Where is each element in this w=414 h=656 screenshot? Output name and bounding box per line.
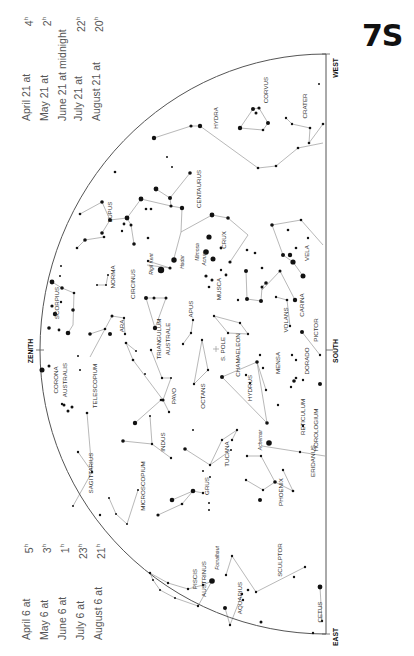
star [259, 299, 263, 303]
star [239, 322, 241, 324]
star [210, 213, 215, 218]
star [220, 375, 224, 379]
constellation-label: INDUS [159, 432, 166, 451]
star [266, 440, 272, 446]
time-date: July 21 at [71, 76, 89, 121]
star [318, 83, 320, 85]
star [144, 373, 146, 375]
star [132, 359, 135, 362]
star [309, 127, 312, 130]
star [251, 107, 255, 111]
star [192, 319, 194, 321]
constellation-label: PISCIS [191, 569, 198, 589]
constellation-label: TRIANGULUM [155, 319, 162, 360]
star [123, 223, 126, 226]
star [238, 126, 242, 130]
star [265, 389, 267, 391]
star [244, 269, 248, 273]
star [295, 377, 298, 380]
star [130, 224, 133, 227]
star [225, 574, 227, 576]
star [257, 106, 260, 109]
star [300, 219, 303, 222]
time-hour: 5h [19, 544, 37, 559]
star [261, 267, 264, 270]
time-date: June 6 at [55, 597, 73, 640]
star [159, 589, 161, 591]
constellation-line [272, 225, 303, 276]
constellation-line [257, 362, 266, 390]
star [231, 439, 233, 441]
star [121, 439, 125, 443]
star [292, 490, 295, 493]
constellation-label: APUS [187, 301, 194, 318]
constellation-label: VELA [303, 244, 310, 261]
star [88, 332, 92, 336]
constellation-label: AQUARIUS [236, 582, 243, 614]
star [152, 579, 154, 581]
page-title: 7S [362, 18, 402, 53]
star [302, 379, 304, 381]
star [123, 317, 125, 319]
star [261, 286, 264, 289]
time-row: April 21 at4h [19, 17, 37, 121]
time-row: May 21 at2h [37, 17, 55, 121]
star [255, 112, 258, 115]
time-hour: 1h [55, 544, 73, 559]
star [312, 632, 314, 634]
time-date: June 21 at midnight [55, 29, 71, 121]
star [260, 621, 263, 624]
direction-label-zenith: ZENITH [27, 339, 34, 364]
time-hour: 3h [37, 544, 55, 559]
star [201, 339, 203, 341]
star [149, 415, 151, 417]
star [259, 354, 261, 356]
star [77, 451, 79, 453]
star [125, 342, 128, 345]
star [71, 308, 75, 312]
star [318, 382, 322, 386]
star [139, 197, 144, 202]
star [114, 171, 117, 174]
constellation-label: GRUS [203, 477, 210, 495]
star [61, 403, 63, 405]
star [208, 509, 210, 511]
star [255, 360, 259, 364]
time-row: April 6 at5h [19, 544, 37, 640]
constellation-label: TELESCOPIUM [91, 364, 98, 408]
star [170, 457, 172, 459]
star [77, 355, 79, 357]
star [168, 196, 172, 200]
constellation-label: MICROSCOPIUM [139, 461, 146, 511]
star [262, 129, 265, 132]
star [290, 386, 292, 388]
star [103, 236, 106, 239]
star [168, 411, 170, 413]
constellation-label: TUCANA [223, 440, 230, 466]
star [47, 326, 51, 330]
star [108, 497, 110, 499]
star [297, 147, 300, 150]
constellation-line [150, 416, 152, 444]
star [236, 429, 238, 431]
star [304, 566, 306, 568]
star [96, 284, 98, 286]
time-row: June 21 at midnight [55, 17, 71, 121]
star [59, 275, 61, 277]
star [60, 301, 62, 303]
star [207, 369, 209, 371]
constellation-label: ARA [118, 319, 125, 333]
star [318, 585, 323, 590]
star [208, 502, 210, 504]
star [246, 455, 248, 457]
star [285, 117, 287, 119]
star [100, 231, 104, 235]
star [66, 331, 71, 336]
time-hour: 21h [91, 544, 109, 565]
constellation-label: HYDRA [212, 106, 219, 129]
constellation-line [172, 491, 203, 500]
star [170, 377, 172, 379]
times-list-top: April 21 at4h May 21 at2h June 21 at mid… [19, 17, 107, 121]
star [300, 330, 304, 334]
direction-label-east: EAST [332, 627, 339, 646]
